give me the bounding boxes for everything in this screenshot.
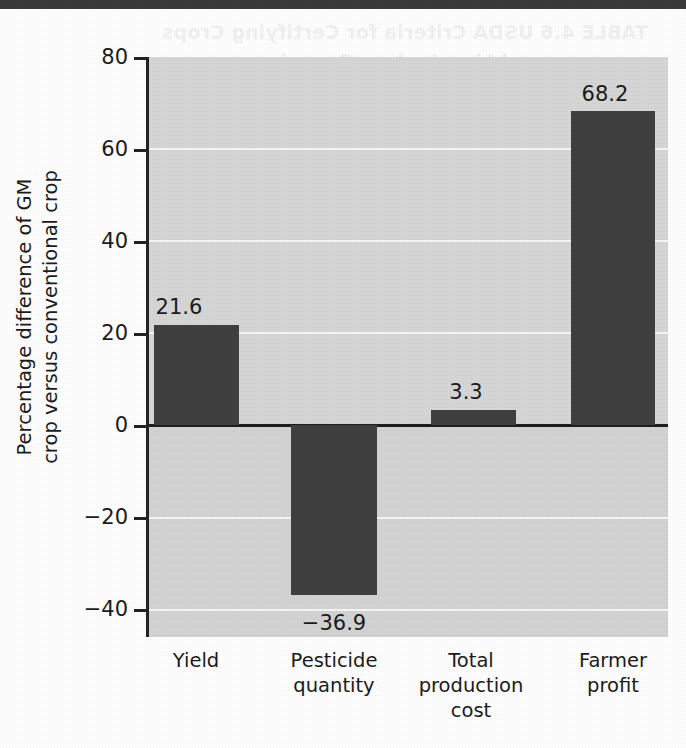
bar-chart: 80 60 40 20 0 −20 −40 Percentage differe…: [0, 0, 686, 748]
gridline-minus-20: [148, 517, 668, 519]
x-category-label-farmer-profit: Farmer profit: [548, 648, 678, 698]
y-tick-minus-40: [134, 609, 147, 612]
bar-yield[interactable]: [154, 325, 239, 425]
y-tick-40: [134, 241, 147, 244]
x-category-label-yield: Yield: [131, 648, 261, 673]
bar-value-farmer-profit: 68.2: [540, 84, 670, 105]
gridline-minus-40: [148, 609, 668, 611]
x-category-label-total-production-cost: Total production cost: [406, 648, 536, 723]
y-tick-60: [134, 149, 147, 152]
y-axis-line: [146, 57, 149, 637]
y-tick-20: [134, 333, 147, 336]
bar-value-total-production-cost: 3.3: [401, 382, 531, 403]
bar-value-pesticide-quantity: −36.9: [269, 613, 399, 634]
x-category-label-pesticide-quantity: Pesticide quantity: [269, 648, 399, 698]
y-tick-0: [134, 425, 147, 428]
y-tick-label-minus-40: −40: [8, 599, 128, 620]
bar-farmer-profit[interactable]: [571, 111, 655, 425]
plot-shade-lower: [148, 425, 668, 637]
bar-value-yield: 21.6: [114, 297, 244, 318]
y-tick-80: [134, 57, 147, 60]
plot-area: [148, 57, 668, 637]
bar-total-production-cost[interactable]: [431, 410, 516, 425]
bar-pesticide-quantity[interactable]: [291, 425, 377, 595]
y-tick-minus-20: [134, 517, 147, 520]
y-tick-label-80: 80: [8, 47, 128, 68]
y-axis-title: Percentage difference of GM crop versus …: [12, 82, 64, 552]
